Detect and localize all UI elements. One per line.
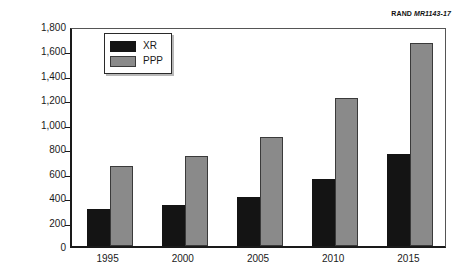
legend-item-xr: XR <box>110 39 163 53</box>
document-id-text: MR1143-17 <box>414 10 451 17</box>
chart-legend: XRPPP <box>104 33 172 74</box>
x-axis-tick-label: 2000 <box>153 252 213 266</box>
x-axis-tick-label: 2010 <box>303 252 363 266</box>
bar-group <box>312 29 358 246</box>
bar-xr-2005 <box>237 197 260 246</box>
y-axis-tick-label: 1,000 <box>24 120 66 132</box>
y-axis-tick-label: 1,200 <box>24 95 66 107</box>
y-axis-tick-label: 800 <box>24 144 66 156</box>
rand-source-credit: RAND MR1143-17 <box>391 10 451 17</box>
y-axis-tick-mark <box>65 53 71 54</box>
bar-xr-1995 <box>87 209 110 246</box>
y-axis-tick-label: 200 <box>24 218 66 230</box>
legend-label-ppp: PPP <box>143 55 163 67</box>
x-axis-tick-label: 2015 <box>378 252 438 266</box>
y-axis-tick-label: 1,600 <box>24 46 66 58</box>
bar-ppp-2015 <box>410 43 433 246</box>
y-axis-tick-mark <box>65 176 71 177</box>
y-axis-tick-mark <box>65 102 71 103</box>
y-axis-tick-mark <box>65 78 71 79</box>
legend-swatch-xr <box>110 41 136 52</box>
y-axis-tick-label: 1,400 <box>24 71 66 83</box>
legend-item-ppp: PPP <box>110 54 163 68</box>
y-axis-tick-label: 1,800 <box>24 22 66 34</box>
bar-group <box>387 29 433 246</box>
bar-xr-2000 <box>162 205 185 246</box>
bar-group <box>237 29 283 246</box>
x-axis-tick-label: 1995 <box>78 252 138 266</box>
y-axis-tick-mark <box>65 127 71 128</box>
legend-label-xr: XR <box>143 40 157 52</box>
y-axis-tick-label: 600 <box>24 169 66 181</box>
bar-ppp-2000 <box>185 156 208 246</box>
bar-ppp-2005 <box>260 137 283 246</box>
y-axis-tick-mark <box>65 200 71 201</box>
legend-swatch-ppp <box>110 56 136 67</box>
y-axis-tick-labels: 02004006008001,0001,2001,4001,6001,800 <box>24 22 66 254</box>
y-axis-tick-label: 400 <box>24 193 66 205</box>
x-axis-tick-labels: 19952000200520102015 <box>70 252 446 268</box>
bar-chart-figure: RAND MR1143-17 Billions of 1998 U.S. dol… <box>0 0 469 280</box>
y-axis-tick-mark <box>65 225 71 226</box>
bar-xr-2010 <box>312 179 335 246</box>
bar-ppp-1995 <box>110 166 133 246</box>
bar-xr-2015 <box>387 154 410 246</box>
rand-logo-text: RAND <box>391 10 412 17</box>
y-axis-tick-label: 0 <box>24 242 66 254</box>
x-axis-tick-label: 2005 <box>228 252 288 266</box>
y-axis-tick-mark <box>65 151 71 152</box>
bar-ppp-2010 <box>335 98 358 246</box>
